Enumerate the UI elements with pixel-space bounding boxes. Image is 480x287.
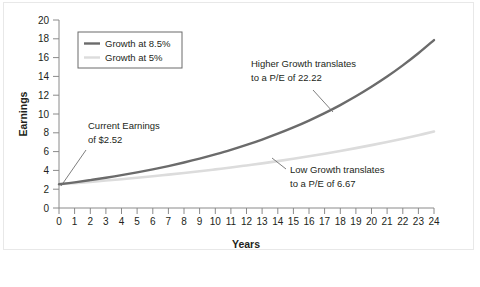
x-tick-label: 12 xyxy=(241,216,253,227)
x-tick-label: 20 xyxy=(366,216,378,227)
annotation-line-1: Higher Growth translates xyxy=(251,58,356,69)
x-axis-title: Years xyxy=(232,238,260,250)
x-tick-label: 3 xyxy=(103,216,109,227)
x-tick-label: 21 xyxy=(382,216,394,227)
x-tick-label: 5 xyxy=(134,216,140,227)
annotation-line-1: Current Earnings xyxy=(88,120,160,131)
earnings-growth-chart: 20 18 16 14 12 10 8 6 4 2 0 0 xyxy=(0,0,480,287)
annotation-line-2: to a P/E of 22.22 xyxy=(251,72,322,83)
x-tick-label: 4 xyxy=(119,216,125,227)
x-tick-label: 9 xyxy=(197,216,203,227)
legend-label-growth-5: Growth at 5% xyxy=(105,52,163,63)
y-tick-label: 4 xyxy=(43,165,49,176)
y-tick-label: 6 xyxy=(43,146,49,157)
x-tick-label: 24 xyxy=(428,216,440,227)
x-tick-label: 22 xyxy=(397,216,409,227)
y-axis-title: Earnings xyxy=(17,91,29,136)
x-tick-label: 7 xyxy=(166,216,172,227)
y-tick-label: 10 xyxy=(38,109,50,120)
annotation-line-1: Low Growth translates xyxy=(290,164,385,175)
x-tick-label: 2 xyxy=(88,216,94,227)
y-tick-label: 14 xyxy=(38,71,50,82)
x-tick-label: 18 xyxy=(335,216,347,227)
x-tick-label: 16 xyxy=(303,216,315,227)
x-tick-label: 8 xyxy=(181,216,187,227)
annotation-leader-line xyxy=(313,90,333,112)
x-tick-label: 14 xyxy=(272,216,284,227)
x-tick-label: 23 xyxy=(413,216,425,227)
x-tick-label: 13 xyxy=(257,216,269,227)
x-tick-label: 11 xyxy=(226,216,237,227)
x-axis-ticks: 0 1 2 3 4 5 6 7 8 9 10 11 12 xyxy=(56,208,440,227)
legend-label-growth-8-5: Growth at 8.5% xyxy=(105,38,171,49)
x-tick-label: 0 xyxy=(56,216,62,227)
annotation-line-2: of $2.52 xyxy=(88,134,122,145)
x-tick-label: 1 xyxy=(72,216,78,227)
chart-figure: 20 18 16 14 12 10 8 6 4 2 0 0 xyxy=(0,0,480,287)
y-tick-label: 12 xyxy=(38,90,50,101)
y-tick-label: 2 xyxy=(43,184,49,195)
x-tick-label: 17 xyxy=(319,216,331,227)
y-tick-label: 8 xyxy=(43,127,49,138)
x-tick-label: 6 xyxy=(150,216,156,227)
y-tick-label: 18 xyxy=(38,33,50,44)
y-tick-label: 20 xyxy=(38,15,50,26)
y-tick-label: 0 xyxy=(43,203,49,214)
y-axis-ticks: 20 18 16 14 12 10 8 6 4 2 0 xyxy=(38,15,59,214)
annotation-low-growth: Low Growth translates to a P/E of 6.67 xyxy=(272,158,385,189)
y-tick-label: 16 xyxy=(38,52,50,63)
x-tick-label: 19 xyxy=(350,216,362,227)
x-tick-label: 15 xyxy=(288,216,300,227)
x-tick-label: 10 xyxy=(210,216,222,227)
annotation-line-2: to a P/E of 6.67 xyxy=(290,178,356,189)
chart-legend: Growth at 8.5% Growth at 5% xyxy=(78,32,182,68)
